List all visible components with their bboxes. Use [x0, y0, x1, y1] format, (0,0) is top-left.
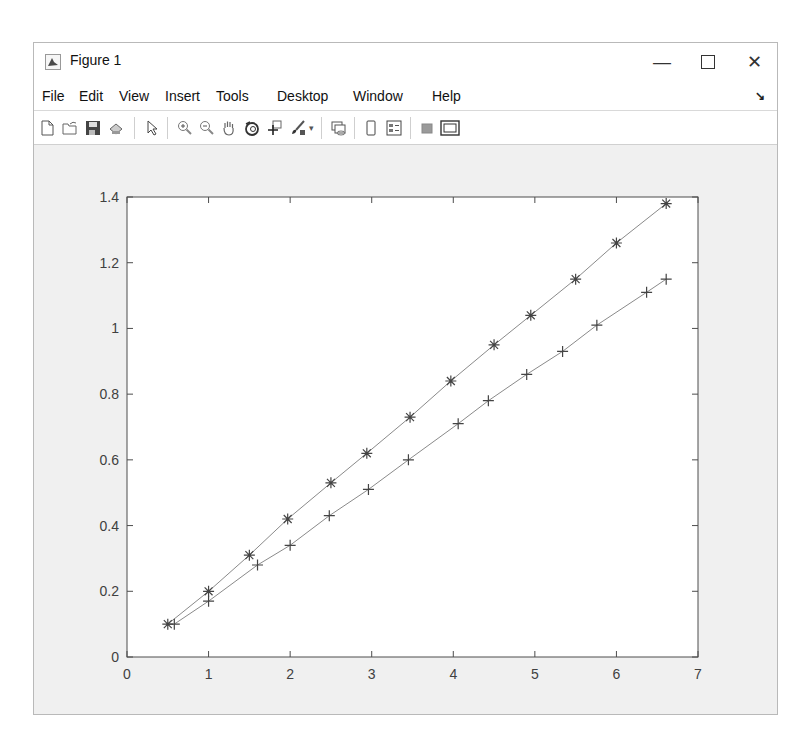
data-point-asterisk — [525, 310, 536, 321]
data-point-asterisk — [325, 477, 336, 488]
close-button[interactable]: ✕ — [731, 43, 777, 81]
zoom-in-icon — [176, 119, 194, 137]
menu-view[interactable]: View — [119, 88, 149, 104]
zoom-in-button[interactable] — [175, 118, 195, 138]
hide-plot-tools-button[interactable] — [417, 118, 437, 138]
new-file-icon — [38, 119, 56, 137]
show-plot-tools-button[interactable] — [440, 118, 460, 138]
insert-legend-button[interactable] — [384, 118, 404, 138]
data-point-asterisk — [405, 412, 416, 423]
data-point-asterisk — [361, 448, 372, 459]
menu-window[interactable]: Window — [353, 88, 403, 104]
x-tick-label: 4 — [449, 666, 457, 682]
y-tick-label: 1 — [111, 320, 119, 336]
link-plot-button[interactable] — [329, 118, 349, 138]
line-chart[interactable]: 0123456700.20.40.60.811.21.4 — [34, 145, 779, 716]
toolbar-separator — [321, 117, 322, 139]
data-point-asterisk — [489, 339, 500, 350]
menu-edit[interactable]: Edit — [79, 88, 103, 104]
menu-help[interactable]: Help — [432, 88, 461, 104]
save-figure-button[interactable] — [83, 118, 103, 138]
y-tick-label: 0.6 — [100, 452, 120, 468]
maximize-button[interactable] — [685, 43, 731, 81]
toolbar-separator — [410, 117, 411, 139]
x-tick-label: 1 — [205, 666, 213, 682]
print-icon — [107, 119, 125, 137]
toolbar-separator — [134, 117, 135, 139]
x-tick-label: 5 — [531, 666, 539, 682]
y-tick-label: 0.4 — [100, 518, 120, 534]
x-tick-label: 3 — [368, 666, 376, 682]
legend-icon — [385, 119, 403, 137]
zoom-out-button[interactable] — [197, 118, 217, 138]
title-bar: Figure 1 — ✕ — [34, 43, 777, 81]
rotate-3d-icon — [243, 119, 261, 137]
data-cursor-button[interactable] — [265, 118, 285, 138]
hand-icon — [220, 119, 238, 137]
new-figure-button[interactable] — [37, 118, 57, 138]
data-point-asterisk — [570, 274, 581, 285]
toolbar-separator — [354, 117, 355, 139]
data-point-asterisk — [244, 550, 255, 561]
y-tick-label: 0.2 — [100, 583, 120, 599]
y-tick-label: 1.2 — [100, 255, 120, 271]
zoom-out-icon — [198, 119, 216, 137]
data-point-asterisk — [611, 238, 622, 249]
data-cursor-icon — [266, 119, 284, 137]
folder-open-icon — [61, 119, 79, 137]
figure-window: Figure 1 — ✕ File Edit View Insert Tools… — [33, 42, 778, 715]
menu-insert[interactable]: Insert — [165, 88, 200, 104]
maximize-icon — [701, 55, 715, 69]
gray-square-icon — [418, 119, 436, 137]
menu-bar: File Edit View Insert Tools Desktop Wind… — [34, 81, 777, 111]
menu-desktop[interactable]: Desktop — [277, 88, 328, 104]
save-icon — [84, 119, 102, 137]
data-point-asterisk — [445, 376, 456, 387]
pan-button[interactable] — [219, 118, 239, 138]
x-tick-label: 0 — [123, 666, 131, 682]
y-tick-label: 0 — [111, 649, 119, 665]
open-file-button[interactable] — [60, 118, 80, 138]
plot-tools-icon — [440, 119, 460, 137]
menu-tools[interactable]: Tools — [216, 88, 249, 104]
rotate-3d-button[interactable] — [242, 118, 262, 138]
link-plot-icon — [330, 119, 348, 137]
colorbar-icon — [362, 119, 380, 137]
figure-canvas: 0123456700.20.40.60.811.21.4 — [34, 145, 777, 714]
edit-plot-button[interactable] — [142, 118, 162, 138]
data-point-asterisk — [282, 514, 293, 525]
pointer-arrow-icon — [143, 119, 161, 137]
y-tick-label: 1.4 — [100, 189, 120, 205]
dock-figure-icon[interactable]: ↘ — [755, 89, 765, 103]
matlab-figure-icon — [45, 54, 61, 70]
window-title: Figure 1 — [70, 52, 121, 68]
x-tick-label: 2 — [286, 666, 294, 682]
toolbar-separator — [167, 117, 168, 139]
insert-colorbar-button[interactable] — [361, 118, 381, 138]
data-point-asterisk — [203, 586, 214, 597]
data-point-asterisk — [661, 198, 672, 209]
dropdown-arrow-icon: ▾ — [309, 123, 314, 133]
x-tick-label: 7 — [694, 666, 702, 682]
y-tick-label: 0.8 — [100, 386, 120, 402]
brush-dropdown[interactable]: ▾ — [306, 118, 316, 138]
brush-button[interactable] — [288, 118, 308, 138]
figure-toolbar: ▾ — [34, 111, 777, 145]
print-figure-button[interactable] — [106, 118, 126, 138]
brush-icon — [289, 119, 307, 137]
menu-file[interactable]: File — [42, 88, 65, 104]
minimize-button[interactable]: — — [639, 43, 685, 81]
x-tick-label: 6 — [613, 666, 621, 682]
